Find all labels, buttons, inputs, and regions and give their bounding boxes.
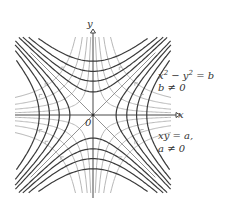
condition-b: b ≠ 0 xyxy=(158,82,186,93)
equation-x2-y2: x2 − y2 = b xyxy=(158,68,214,81)
y-axis-arrow-icon xyxy=(91,29,96,33)
x-axis-label: x xyxy=(178,109,184,120)
hyperbola-diagram xyxy=(0,0,227,207)
equation-xy: xy = a, xyxy=(158,130,193,141)
origin-label: 0 xyxy=(85,117,91,128)
y-axis-label: y xyxy=(87,18,93,29)
condition-a: a ≠ 0 xyxy=(158,143,185,154)
right-angle-marker xyxy=(39,94,42,97)
origin-point xyxy=(92,114,95,117)
